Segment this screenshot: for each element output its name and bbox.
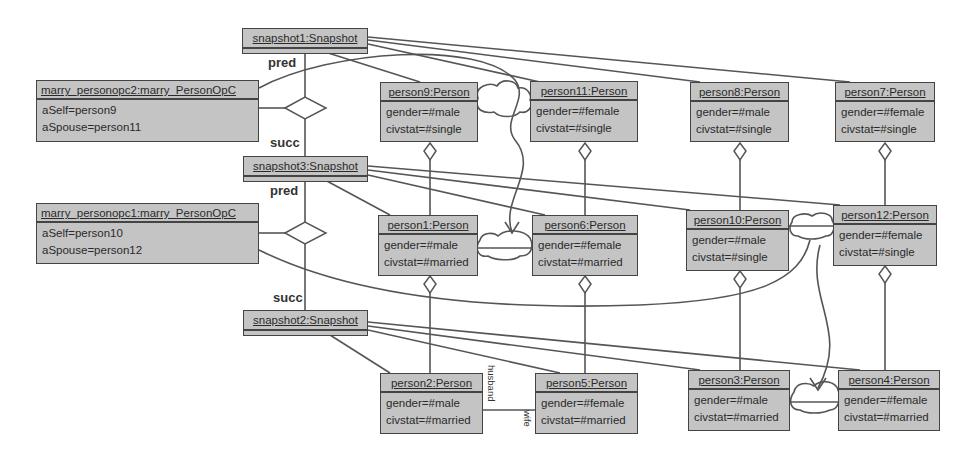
attribute-civstat: civstat=#single: [841, 121, 929, 138]
object-title: person12:Person: [834, 206, 936, 225]
person10-object[interactable]: person10:Person gender=#malecivstat=#sin…: [686, 210, 789, 271]
succ-role-label: succ: [273, 290, 303, 305]
person6-object[interactable]: person6:Person gender=#femalecivstat=#ma…: [532, 215, 638, 276]
object-title: person2:Person: [381, 374, 482, 393]
object-title: person11:Person: [531, 82, 637, 101]
object-title: snapshot2:Snapshot: [244, 311, 367, 331]
pred-role-label: pred: [270, 183, 298, 198]
object-title: person8:Person: [691, 83, 788, 102]
object-title: person10:Person: [687, 211, 788, 230]
attribute-gender: gender=#female: [844, 392, 934, 409]
attribute-gender: gender=#male: [386, 395, 477, 412]
attribute-gender: gender=#male: [692, 232, 783, 249]
snapshot2-object[interactable]: snapshot2:Snapshot: [243, 310, 368, 336]
attribute-aspouse: aSpouse=person12: [42, 242, 253, 259]
attribute-gender: gender=#female: [538, 237, 632, 254]
object-title: person9:Person: [381, 83, 477, 102]
attribute-civstat: civstat=#married: [384, 254, 472, 271]
attribute-civstat: civstat=#single: [386, 121, 472, 138]
snapshot3-object[interactable]: snapshot3:Snapshot: [243, 156, 368, 182]
attribute-civstat: civstat=#married: [541, 412, 632, 429]
person9-object[interactable]: person9:Person gender=#malecivstat=#sing…: [380, 82, 478, 142]
attribute-aself: aSelf=person9: [42, 102, 253, 119]
marry-personopc1-object[interactable]: marry_personopc1:marry_PersonOpC aSelf=p…: [36, 203, 259, 264]
husband-role-label: husband: [486, 365, 497, 401]
attribute-civstat: civstat=#married: [844, 409, 934, 426]
object-title: person7:Person: [836, 83, 934, 102]
object-title: person4:Person: [839, 371, 939, 390]
object-title: person6:Person: [533, 216, 637, 235]
attribute-civstat: civstat=#single: [839, 244, 931, 261]
wife-role-label: wife: [522, 410, 533, 427]
object-title: snapshot1:Snapshot: [243, 29, 367, 49]
attribute-civstat: civstat=#single: [696, 121, 783, 138]
person12-object[interactable]: person12:Person gender=#femalecivstat=#s…: [833, 205, 937, 266]
person8-object[interactable]: person8:Person gender=#malecivstat=#sing…: [690, 82, 789, 142]
person3-object[interactable]: person3:Person gender=#malecivstat=#marr…: [688, 370, 790, 431]
person1-object[interactable]: person1:Person gender=#malecivstat=#marr…: [378, 215, 478, 276]
attribute-gender: gender=#male: [694, 392, 784, 409]
object-title: snapshot3:Snapshot: [244, 157, 367, 177]
attribute-gender: gender=#male: [696, 104, 783, 121]
attribute-gender: gender=#male: [384, 237, 472, 254]
attribute-civstat: civstat=#married: [538, 254, 632, 271]
attribute-gender: gender=#female: [541, 395, 632, 412]
attribute-aspouse: aSpouse=person11: [42, 119, 253, 136]
person11-object[interactable]: person11:Person gender=#femalecivstat=#s…: [530, 81, 638, 142]
object-title: marry_personopc1:marry_PersonOpC: [37, 204, 258, 223]
object-title: person5:Person: [536, 374, 637, 393]
marry-personopc2-object[interactable]: marry_personopc2:marry_PersonOpC aSelf=p…: [36, 80, 259, 142]
attribute-gender: gender=#female: [536, 103, 632, 120]
attribute-gender: gender=#female: [839, 227, 931, 244]
object-title: marry_personopc2:marry_PersonOpC: [37, 81, 258, 100]
attribute-civstat: civstat=#married: [694, 409, 784, 426]
pred-role-label: pred: [268, 55, 296, 70]
attribute-civstat: civstat=#single: [692, 249, 783, 266]
attribute-civstat: civstat=#married: [386, 412, 477, 429]
person5-object[interactable]: person5:Person gender=#femalecivstat=#ma…: [535, 373, 638, 434]
attribute-aself: aSelf=person10: [42, 225, 253, 242]
snapshot1-object[interactable]: snapshot1:Snapshot: [242, 28, 368, 54]
person2-object[interactable]: person2:Person gender=#malecivstat=#marr…: [380, 373, 483, 434]
object-title: person1:Person: [379, 216, 477, 235]
snapshot-link-diamond: [285, 222, 326, 244]
attribute-gender: gender=#male: [386, 104, 472, 121]
person4-object[interactable]: person4:Person gender=#femalecivstat=#ma…: [838, 370, 940, 431]
person7-object[interactable]: person7:Person gender=#femalecivstat=#si…: [835, 82, 935, 142]
attribute-gender: gender=#female: [841, 104, 929, 121]
succ-role-label: succ: [270, 135, 300, 150]
snapshot-link-diamond: [285, 97, 326, 119]
object-title: person3:Person: [689, 371, 789, 390]
object-diagram: snapshot1:Snapshot snapshot3:Snapshot sn…: [0, 0, 977, 462]
attribute-civstat: civstat=#single: [536, 120, 632, 137]
